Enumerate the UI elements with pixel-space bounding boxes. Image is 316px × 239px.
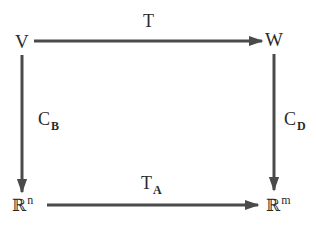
label-t-text: T [143, 11, 154, 31]
label-t: T [143, 12, 154, 30]
label-cd-text: C [284, 109, 296, 129]
node-w-label: W [265, 29, 283, 50]
node-rn: ℝn [12, 195, 33, 214]
label-ta-text: T [141, 173, 152, 193]
label-cb-sub: B [51, 119, 59, 133]
node-rn-base: ℝ [12, 195, 26, 215]
label-ta-sub: A [153, 183, 162, 197]
node-rm-base: ℝ [266, 195, 280, 215]
label-cd: CD [284, 110, 306, 128]
label-cd-sub: D [297, 119, 306, 133]
node-rn-sup: n [27, 193, 33, 207]
node-rm-sup: m [281, 193, 290, 207]
node-rm: ℝm [266, 195, 290, 214]
node-v-label: V [15, 31, 29, 52]
node-w: W [265, 30, 283, 49]
label-cb: CB [38, 110, 59, 128]
label-ta: TA [141, 174, 162, 192]
node-v: V [15, 32, 29, 51]
label-cb-text: C [38, 109, 50, 129]
